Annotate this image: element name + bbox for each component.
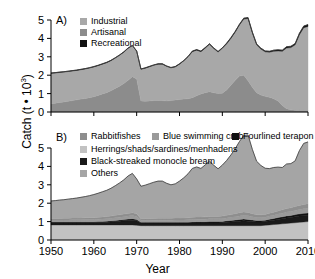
- legend-label: Black-streaked monocle bream: [91, 157, 215, 166]
- y-tick-label: 2: [38, 197, 44, 209]
- legend-swatch-icon: [80, 133, 87, 140]
- x-tick-label: 2000: [253, 245, 277, 257]
- legend-item-b-3: Herrings/shads/sardines/menhadens: [80, 145, 238, 154]
- legend-swatch-icon: [80, 29, 87, 36]
- legend-item-b-1: Blue swimming crab: [152, 132, 244, 141]
- y-axis-title: Catch (t • 103): [19, 64, 34, 160]
- y-tick-label: 4: [38, 160, 44, 172]
- legend-label: Industrial: [91, 17, 128, 26]
- y-axis-title-text: Catch (t: [20, 107, 34, 149]
- panel-a-tag: A): [56, 14, 67, 26]
- x-tick-label: 1990: [210, 245, 234, 257]
- y-tick-label: 5: [38, 14, 44, 26]
- y-axis-title-close: ): [20, 74, 34, 78]
- legend-swatch-icon: [80, 170, 87, 177]
- legend-item-b-0: Rabbitfishes: [80, 132, 141, 141]
- y-tick-label: 5: [38, 142, 44, 154]
- y-tick-label: 1: [38, 216, 44, 228]
- legend-swatch-icon: [80, 18, 87, 25]
- y-tick-label: 0: [38, 106, 44, 118]
- legend-swatch-icon: [80, 146, 87, 153]
- legend-label: Artisanal: [91, 28, 126, 37]
- panel-a-plot: 012345: [0, 12, 315, 124]
- x-tick-label: 1960: [82, 245, 106, 257]
- x-tick-label: 1970: [124, 245, 148, 257]
- legend-swatch-icon: [232, 133, 239, 140]
- panel-b-tag: B): [56, 131, 67, 143]
- legend-item-a-1: Artisanal: [80, 28, 126, 37]
- x-axis-title: Year: [0, 262, 315, 276]
- legend-swatch-icon: [152, 133, 159, 140]
- legend-label: Others: [91, 169, 118, 178]
- legend-item-b-4: Black-streaked monocle bream: [80, 157, 215, 166]
- y-tick-label: 3: [38, 179, 44, 191]
- y-axis-title-mult: • 10: [20, 83, 34, 107]
- x-tick-label: 1950: [39, 245, 63, 257]
- x-tick-label: 1980: [167, 245, 191, 257]
- legend-item-a-0: Industrial: [80, 17, 128, 26]
- legend-label: Herrings/shads/sardines/menhadens: [91, 145, 238, 154]
- panel-a: 012345: [0, 12, 315, 124]
- y-tick-label: 4: [38, 32, 44, 44]
- legend-label: Fourlined terapon: [243, 132, 314, 141]
- legend-item-b-2: Fourlined terapon: [232, 132, 314, 141]
- legend-swatch-icon: [80, 40, 87, 47]
- legend-swatch-icon: [80, 158, 87, 165]
- y-tick-label: 3: [38, 51, 44, 63]
- x-tick-label: 2010: [296, 245, 315, 257]
- y-tick-label: 1: [38, 88, 44, 100]
- legend-label: Recreational: [91, 39, 142, 48]
- y-tick-label: 2: [38, 69, 44, 81]
- legend-item-b-5: Others: [80, 169, 118, 178]
- legend-label: Rabbitfishes: [91, 132, 141, 141]
- figure-catch-timeseries: 012345 A) IndustrialArtisanalRecreationa…: [0, 0, 315, 279]
- legend-item-a-2: Recreational: [80, 39, 142, 48]
- y-axis-title-exponent: 3: [19, 78, 28, 82]
